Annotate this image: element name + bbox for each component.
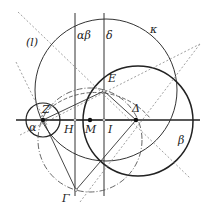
label-kappa: κ <box>150 24 157 35</box>
label-m: M <box>85 124 96 135</box>
circle-beta <box>83 66 193 176</box>
dotted-line-gamma <box>80 44 200 202</box>
dotted-line-upper-right <box>20 44 200 135</box>
label-alpha: α <box>29 122 36 133</box>
label-h: H <box>64 124 74 135</box>
point-h <box>74 119 77 122</box>
point-e <box>103 90 106 93</box>
label-z: Z <box>42 104 50 115</box>
label-delta-line: δ <box>106 30 113 41</box>
label-delta-point: Δ <box>132 103 140 114</box>
point-z <box>41 118 45 122</box>
label-beta: β <box>178 135 184 146</box>
label-l: (l) <box>26 37 38 48</box>
label-e: E <box>108 73 116 84</box>
label-i: I <box>108 124 112 135</box>
point-m <box>88 118 92 122</box>
label-gamma: Γ <box>62 193 70 204</box>
point-delta <box>134 118 138 122</box>
point-i <box>103 119 106 122</box>
circle-dash-dot <box>38 88 142 192</box>
geometry-diagram: (l) αβ δ κ E Z α H M I Δ β Γ <box>0 0 217 212</box>
label-alpha-beta: αβ <box>77 30 91 41</box>
point-gamma <box>75 189 78 192</box>
